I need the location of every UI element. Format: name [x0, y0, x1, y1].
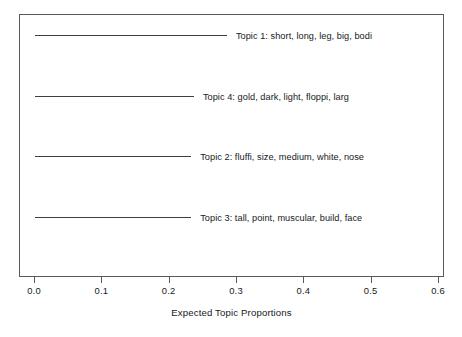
x-tick-mark — [371, 277, 372, 283]
x-tick-label: 0.3 — [218, 285, 254, 297]
topic-bar-line — [35, 96, 194, 97]
topic-label: Topic 1: short, long, leg, big, bodi — [236, 28, 372, 44]
x-tick-mark — [101, 277, 102, 283]
plot-area: Topic 1: short, long, leg, big, bodiTopi… — [20, 15, 443, 276]
topic-bar-line — [35, 217, 191, 218]
x-tick-label: 0.6 — [420, 285, 456, 297]
topic-bar-line — [35, 35, 227, 36]
x-tick-label: 0.1 — [83, 285, 119, 297]
topic-row: Topic 4: gold, dark, light, floppi, larg — [20, 89, 443, 105]
topic-row: Topic 1: short, long, leg, big, bodi — [20, 28, 443, 44]
x-axis: Expected Topic Proportions 0.00.10.20.30… — [19, 277, 444, 337]
x-tick-label: 0.5 — [353, 285, 389, 297]
x-tick-mark — [169, 277, 170, 283]
topic-row: Topic 2: fluffi, size, medium, white, no… — [20, 149, 443, 165]
x-tick-label: 0.0 — [16, 285, 52, 297]
plot-panel: Topic 1: short, long, leg, big, bodiTopi… — [19, 14, 444, 277]
topic-label: Topic 4: gold, dark, light, floppi, larg — [203, 89, 349, 105]
x-tick-label: 0.2 — [151, 285, 187, 297]
x-tick-label: 0.4 — [285, 285, 321, 297]
x-axis-title: Expected Topic Proportions — [19, 307, 444, 318]
figure-canvas: Topic 1: short, long, leg, big, bodiTopi… — [0, 0, 462, 337]
x-tick-mark — [438, 277, 439, 283]
x-tick-mark — [236, 277, 237, 283]
x-tick-mark — [303, 277, 304, 283]
cropped-title-remnant — [186, 0, 296, 6]
topic-label: Topic 2: fluffi, size, medium, white, no… — [200, 149, 364, 165]
topic-row: Topic 3: tall, point, muscular, build, f… — [20, 210, 443, 226]
topic-bar-line — [35, 156, 191, 157]
topic-label: Topic 3: tall, point, muscular, build, f… — [200, 210, 362, 226]
x-tick-mark — [34, 277, 35, 283]
